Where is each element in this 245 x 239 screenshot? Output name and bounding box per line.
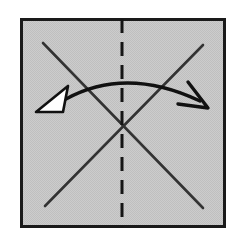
fold-diagram-canvas: [0, 0, 245, 239]
fold-diagram-figure: Square fold diagram with vertical fold l…: [0, 0, 245, 239]
